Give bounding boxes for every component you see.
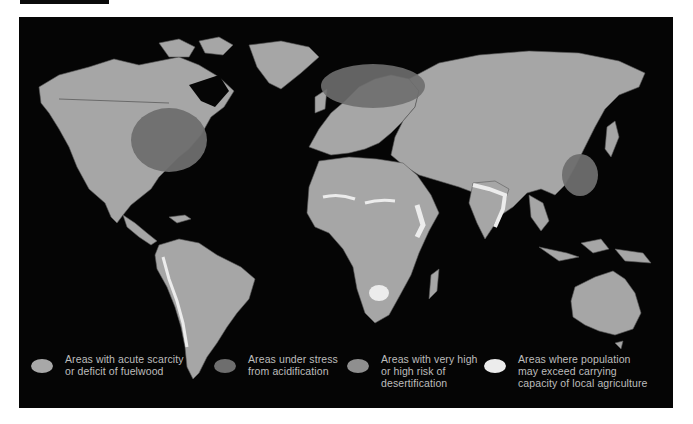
acidification-zone-europe bbox=[321, 64, 425, 108]
asia bbox=[391, 51, 651, 263]
legend-label: Areas with very high or high risk of des… bbox=[381, 353, 478, 389]
header-tab bbox=[20, 0, 109, 4]
legend-label: Areas with acute scarcity or deficit of … bbox=[65, 353, 184, 377]
map-legend: Areas with acute scarcity or deficit of … bbox=[19, 353, 673, 403]
legend-item-fuelwood: Areas with acute scarcity or deficit of … bbox=[31, 353, 184, 377]
fuelwood-swatch-icon bbox=[31, 359, 53, 373]
legend-item-desertification: Areas with very high or high risk of des… bbox=[347, 353, 478, 389]
legend-label: Areas where population may exceed carryi… bbox=[518, 353, 648, 389]
acidification-zone-china bbox=[562, 154, 598, 196]
australia bbox=[571, 271, 641, 349]
desertification-swatch-icon bbox=[347, 359, 369, 373]
world-map bbox=[19, 17, 673, 408]
legend-item-overpopulation: Areas where population may exceed carryi… bbox=[484, 353, 648, 389]
legend-label: Areas under stress from acidification bbox=[248, 353, 338, 377]
world-map-panel: Areas with acute scarcity or deficit of … bbox=[19, 17, 673, 408]
legend-item-acidification: Areas under stress from acidification bbox=[214, 353, 338, 377]
southern-africa-overpopulation-zone bbox=[369, 285, 389, 301]
acidification-zone-north-america bbox=[131, 108, 207, 172]
overpopulation-swatch-icon bbox=[484, 359, 506, 373]
acidification-swatch-icon bbox=[214, 359, 236, 373]
